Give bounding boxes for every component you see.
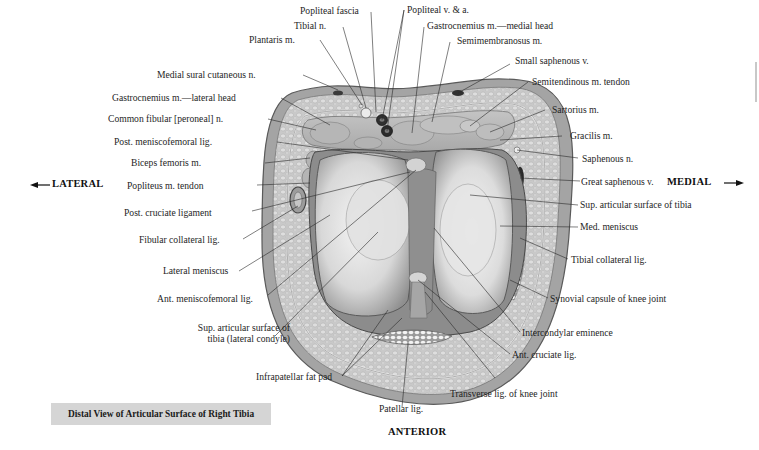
label-semitendinous-m-tendon: Semitendinous m. tendon bbox=[532, 76, 630, 87]
label-plantaris-m: Plantaris m. bbox=[249, 34, 295, 45]
label-post-meniscofemoral-lig: Post. meniscofemoral lig. bbox=[114, 136, 212, 147]
label-popliteus-m-tendon: Popliteus m. tendon bbox=[127, 180, 203, 191]
label-post-cruciate-ligament: Post. cruciate ligament bbox=[124, 207, 212, 218]
label-tibial-collateral-lig: Tibial collateral lig. bbox=[571, 254, 647, 265]
label-ant-meniscofemoral-lig: Ant. meniscofemoral lig. bbox=[157, 293, 253, 304]
label-sup-articular-lateral-line2: tibia (lateral condyle) bbox=[186, 333, 290, 344]
label-medial-sural-cutaneous-n: Medial sural cutaneous n. bbox=[157, 69, 256, 80]
label-transverse-lig: Transverse lig. of knee joint bbox=[450, 388, 558, 399]
label-sup-articular-surface-tibia: Sup. articular surface of tibia bbox=[580, 199, 692, 210]
orientation-medial: MEDIAL bbox=[667, 176, 711, 187]
label-patellar-lig: Patellar lig. bbox=[379, 403, 423, 414]
label-popliteal-fascia: Popliteal fascia bbox=[300, 5, 359, 16]
figure-caption: Distal View of Articular Surface of Righ… bbox=[51, 403, 271, 425]
label-infrapatellar-fat-pad: Infrapatellar fat pad bbox=[256, 371, 332, 382]
tibia-cross-section-illustration bbox=[0, 0, 759, 450]
label-fibular-collateral-lig: Fibular collateral lig. bbox=[139, 234, 220, 245]
label-lateral-meniscus: Lateral meniscus bbox=[163, 265, 228, 276]
label-saphenous-n: Saphenous n. bbox=[582, 153, 633, 164]
page-edge-divider bbox=[755, 62, 757, 102]
label-gastrocnemius-lateral-head: Gastrocnemius m.—lateral head bbox=[112, 92, 236, 103]
label-ant-cruciate-lig: Ant. cruciate lig. bbox=[512, 349, 576, 360]
label-sartorius-m: Sartorius m. bbox=[552, 104, 599, 115]
label-great-saphenous-v: Great saphenous v. bbox=[581, 176, 654, 187]
label-semimembranosus-m: Semimembranosus m. bbox=[457, 35, 542, 46]
label-med-meniscus: Med. meniscus bbox=[580, 221, 638, 232]
label-gastrocnemius-medial-head: Gastrocnemius m.—medial head bbox=[427, 20, 553, 31]
orientation-lateral: LATERAL bbox=[52, 178, 103, 189]
label-sup-articular-lateral-line1: Sup. articular surface of bbox=[186, 322, 290, 333]
label-gracilis-m: Gracilis m. bbox=[570, 130, 613, 141]
label-synovial-capsule: Synovial capsule of knee joint bbox=[550, 293, 666, 304]
label-intercondylar-eminence: Intercondylar eminence bbox=[522, 327, 613, 338]
label-biceps-femoris-m: Biceps femoris m. bbox=[131, 157, 201, 168]
label-tibial-n: Tibial n. bbox=[294, 20, 326, 31]
label-common-fibular-n: Common fibular [peroneal] n. bbox=[108, 113, 223, 124]
label-popliteal-v-a: Popliteal v. & a. bbox=[407, 4, 469, 15]
orientation-anterior: ANTERIOR bbox=[388, 426, 446, 437]
anatomy-figure: Popliteal fascia Tibial n. Plantaris m. … bbox=[0, 0, 759, 450]
label-small-saphenous-v: Small saphenous v. bbox=[515, 55, 589, 66]
